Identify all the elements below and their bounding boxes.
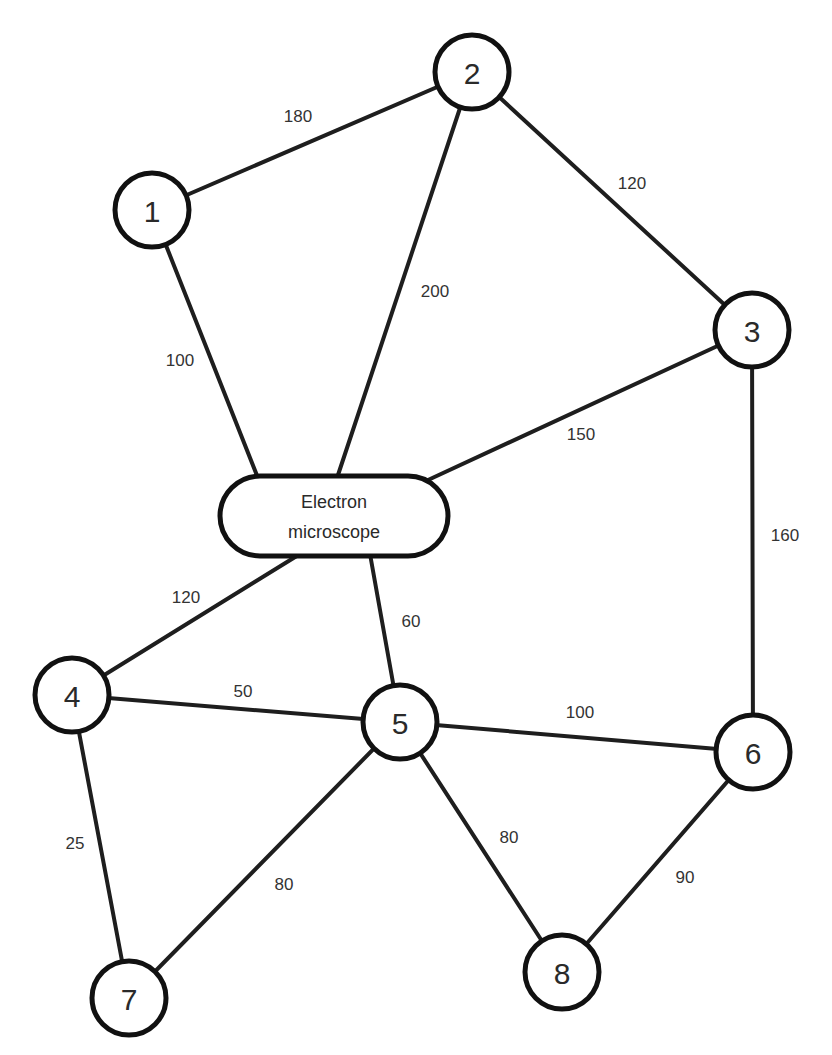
edge-weight-1-2: 180 (284, 107, 312, 126)
hub-label-line1: Electron (301, 492, 367, 512)
node-1: 1 (115, 173, 189, 247)
node-8: 8 (525, 935, 599, 1009)
edge-weight-4-7: 25 (66, 834, 85, 853)
node-6: 6 (716, 715, 790, 789)
edge-weight-3-EM: 150 (567, 425, 595, 444)
node-label-2: 2 (464, 57, 481, 90)
node-3: 3 (715, 293, 789, 367)
edge-3-6 (752, 330, 753, 752)
node-7: 7 (92, 961, 166, 1035)
node-label-6: 6 (745, 737, 762, 770)
edge-weight-6-8: 90 (676, 868, 695, 887)
electron-microscope-pill (220, 476, 448, 556)
edge-6-8 (562, 752, 753, 972)
edge-weight-EM-5: 60 (402, 612, 421, 631)
edge-weight-4-5: 50 (234, 682, 253, 701)
network-diagram: 180100200120150160120605025100808090 Ele… (0, 0, 832, 1055)
electron-microscope-node: Electron microscope (220, 476, 448, 556)
edge-weight-5-8: 80 (500, 828, 519, 847)
edge-5-6 (400, 722, 753, 752)
edge-weight-EM-4: 120 (172, 588, 200, 607)
hub-label-line2: microscope (288, 522, 380, 542)
node-2: 2 (435, 35, 509, 109)
edge-weight-3-6: 160 (771, 526, 799, 545)
edge-5-8 (400, 722, 562, 972)
node-label-7: 7 (121, 983, 138, 1016)
edge-weight-2-EM: 200 (421, 282, 449, 301)
edge-5-7 (129, 722, 400, 998)
node-label-4: 4 (64, 680, 81, 713)
edge-EM-4 (72, 554, 300, 695)
edge-weight-5-7: 80 (275, 875, 294, 894)
node-4: 4 (35, 658, 109, 732)
edge-weight-5-6: 100 (566, 703, 594, 722)
node-5: 5 (363, 685, 437, 759)
node-label-5: 5 (392, 707, 409, 740)
edge-2-EM (337, 72, 472, 478)
edge-weight-2-3: 120 (618, 174, 646, 193)
node-label-8: 8 (554, 957, 571, 990)
edge-2-3 (472, 72, 752, 330)
node-label-1: 1 (144, 195, 161, 228)
node-label-3: 3 (744, 315, 761, 348)
edge-weight-1-EM: 100 (166, 351, 194, 370)
edge-1-EM (152, 210, 258, 478)
edge-1-2 (152, 72, 472, 210)
edge-3-EM (428, 330, 752, 480)
